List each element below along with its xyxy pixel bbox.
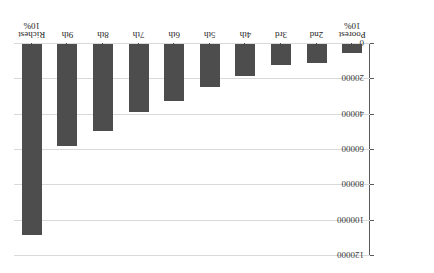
y-tick-mark <box>370 78 374 79</box>
y-tick-mark <box>370 114 374 115</box>
x-tick-mark <box>351 43 352 47</box>
bar <box>235 44 255 76</box>
x-tick-mark <box>280 43 281 47</box>
x-tick-label: Poorest 10% <box>323 21 381 39</box>
bar <box>22 44 42 235</box>
x-tick-mark <box>102 43 103 47</box>
gridline <box>14 255 370 256</box>
y-tick-mark <box>370 149 374 150</box>
y-tick-label: 80000 <box>342 179 365 189</box>
x-tick-mark <box>209 43 210 47</box>
gridline <box>14 184 370 185</box>
y-tick-label: 60000 <box>342 144 365 154</box>
x-tick-mark <box>173 43 174 47</box>
gridline <box>14 149 370 150</box>
y-tick-label: 100000 <box>337 215 364 225</box>
y-tick-label: 120000 <box>337 250 364 260</box>
y-tick-mark <box>370 220 374 221</box>
bar <box>129 44 149 112</box>
x-tick-mark <box>31 43 32 47</box>
bar <box>271 44 291 65</box>
bar <box>307 44 327 63</box>
y-tick-mark <box>370 255 374 256</box>
y-tick-label: 40000 <box>342 109 365 119</box>
chart-figure: 020000400006000080000100000120000 Riches… <box>0 0 434 273</box>
x-tick-mark <box>316 43 317 47</box>
bar <box>164 44 184 101</box>
bar <box>200 44 220 87</box>
y-tick-mark <box>370 184 374 185</box>
plot-area: 020000400006000080000100000120000 <box>14 43 370 255</box>
gridline <box>14 220 370 221</box>
bar <box>57 44 77 146</box>
x-tick-mark <box>138 43 139 47</box>
y-tick-mark <box>370 43 374 44</box>
y-tick-label: 20000 <box>342 73 365 83</box>
bar <box>342 44 362 53</box>
bar <box>93 44 113 131</box>
x-tick-mark <box>66 43 67 47</box>
x-tick-mark <box>244 43 245 47</box>
